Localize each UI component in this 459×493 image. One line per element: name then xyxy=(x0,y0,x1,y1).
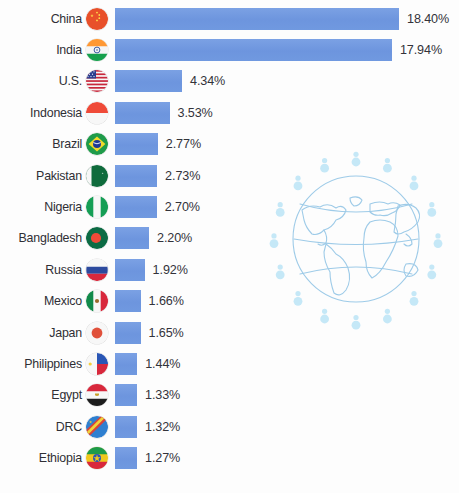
chart-row: Ethiopia 1.27% xyxy=(0,442,459,473)
flag-russia-icon xyxy=(86,259,108,281)
value-label: 2.20% xyxy=(157,231,192,245)
value-bar xyxy=(115,227,149,249)
chart-row: Philippines 1.44% xyxy=(0,348,459,379)
value-bar xyxy=(115,165,157,187)
bar-container: 18.40% xyxy=(115,3,459,34)
value-bar xyxy=(115,384,137,406)
value-bar xyxy=(115,322,141,344)
flag-brazil-icon xyxy=(86,133,108,155)
flag-indonesia-icon xyxy=(86,102,108,124)
chart-row: Mexico 1.66% xyxy=(0,286,459,317)
country-label: Ethiopia xyxy=(0,451,86,465)
chart-row: Russia 1.92% xyxy=(0,254,459,285)
bar-container: 1.66% xyxy=(115,286,459,317)
flag-bangladesh-icon xyxy=(86,227,108,249)
value-bar xyxy=(115,102,170,124)
bar-container: 4.34% xyxy=(115,66,459,97)
value-label: 4.34% xyxy=(190,74,225,88)
flag-drc-icon xyxy=(86,416,108,438)
infographic-page: China 18.40%India 17.94%U.S. 4.34%Indone… xyxy=(0,0,459,493)
value-label: 2.77% xyxy=(166,137,201,151)
country-label: Egypt xyxy=(0,388,86,402)
value-label: 2.73% xyxy=(165,169,200,183)
flag-japan-icon xyxy=(86,322,108,344)
bar-container: 1.33% xyxy=(115,380,459,411)
chart-row: Japan 1.65% xyxy=(0,317,459,348)
country-label: Japan xyxy=(0,326,86,340)
country-label: U.S. xyxy=(0,74,86,88)
bar-container: 1.44% xyxy=(115,348,459,379)
chart-row: India 17.94% xyxy=(0,34,459,65)
bar-container: 1.32% xyxy=(115,411,459,442)
country-label: Bangladesh xyxy=(0,231,86,245)
chart-row: Brazil 2.77% xyxy=(0,129,459,160)
value-label: 1.92% xyxy=(153,263,188,277)
bar-container: 2.77% xyxy=(115,129,459,160)
flag-philippines-icon xyxy=(86,353,108,375)
value-label: 1.27% xyxy=(145,451,180,465)
chart-row: U.S. 4.34% xyxy=(0,66,459,97)
value-bar xyxy=(115,290,141,312)
value-label: 3.53% xyxy=(178,106,213,120)
chart-row: Nigeria 2.70% xyxy=(0,191,459,222)
flag-mexico-icon xyxy=(86,290,108,312)
country-label: Brazil xyxy=(0,137,86,151)
bar-container: 1.92% xyxy=(115,254,459,285)
value-bar xyxy=(115,70,182,92)
value-bar xyxy=(115,196,157,218)
country-label: Nigeria xyxy=(0,200,86,214)
bar-container: 2.20% xyxy=(115,223,459,254)
bar-container: 3.53% xyxy=(115,97,459,128)
country-label: Russia xyxy=(0,263,86,277)
flag-china-icon xyxy=(86,8,108,30)
chart-row: Indonesia 3.53% xyxy=(0,97,459,128)
value-bar xyxy=(115,259,145,281)
flag-nigeria-icon xyxy=(86,196,108,218)
value-label: 1.32% xyxy=(145,420,180,434)
chart-row: China 18.40% xyxy=(0,3,459,34)
value-bar xyxy=(115,39,392,61)
flag-pakistan-icon xyxy=(86,165,108,187)
flag-ethiopia-icon xyxy=(86,447,108,469)
value-bar xyxy=(115,353,137,375)
value-label: 1.33% xyxy=(145,388,180,402)
value-label: 1.44% xyxy=(145,357,180,371)
population-share-bar-chart: China 18.40%India 17.94%U.S. 4.34%Indone… xyxy=(0,3,459,474)
bar-container: 17.94% xyxy=(115,34,459,65)
value-bar xyxy=(115,133,158,155)
country-label: Pakistan xyxy=(0,169,86,183)
flag-united-states-icon xyxy=(86,70,108,92)
value-label: 18.40% xyxy=(407,12,449,26)
bar-container: 1.65% xyxy=(115,317,459,348)
chart-row: Bangladesh 2.20% xyxy=(0,223,459,254)
bar-container: 1.27% xyxy=(115,442,459,473)
value-bar xyxy=(115,8,399,30)
value-label: 1.65% xyxy=(149,326,184,340)
value-label: 1.66% xyxy=(149,294,184,308)
country-label: India xyxy=(0,43,86,57)
value-label: 17.94% xyxy=(400,43,442,57)
chart-row: DRC 1.32% xyxy=(0,411,459,442)
bar-container: 2.70% xyxy=(115,191,459,222)
country-label: DRC xyxy=(0,420,86,434)
country-label: Mexico xyxy=(0,294,86,308)
flag-egypt-icon xyxy=(86,384,108,406)
value-label: 2.70% xyxy=(165,200,200,214)
chart-row: Pakistan 2.73% xyxy=(0,160,459,191)
country-label: Philippines xyxy=(0,357,86,371)
country-label: Indonesia xyxy=(0,106,86,120)
flag-india-icon xyxy=(86,39,108,61)
value-bar xyxy=(115,447,137,469)
chart-row: Egypt 1.33% xyxy=(0,380,459,411)
value-bar xyxy=(115,416,137,438)
bar-container: 2.73% xyxy=(115,160,459,191)
country-label: China xyxy=(0,12,86,26)
